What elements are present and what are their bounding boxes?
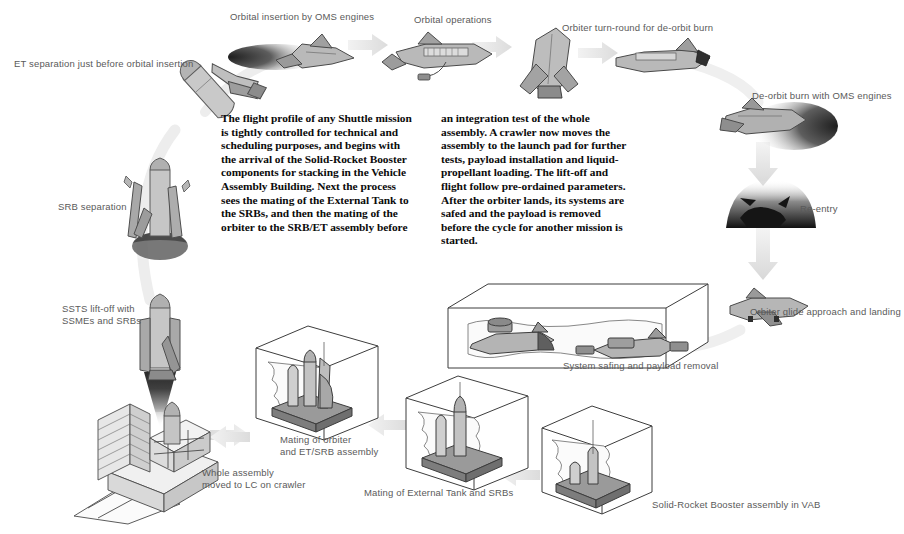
shuttle-mission-cycle-diagram: ET separation just before orbital insert…	[0, 0, 904, 534]
label-orbital-insertion: Orbital insertion by OMS engines	[230, 11, 374, 23]
label-srb-separation: SRB separation	[58, 201, 127, 213]
label-whole-assembly: Whole assembly moved to LC on crawler	[202, 467, 306, 490]
label-mating-orbiter: Mating of orbiter and ET/SRB assembly	[280, 434, 378, 457]
label-system-safing: System safing and payload removal	[563, 360, 718, 372]
body-text-column-2: an integration test of the whole assembl…	[441, 112, 627, 248]
label-glide-landing: Orbiter glide approach and landing	[750, 306, 901, 318]
art-deorbit-burn	[720, 96, 860, 162]
label-mating-et-srb: Mating of External Tank and SRBs	[364, 487, 513, 499]
label-deorbit-burn: De-orbit burn with OMS engines	[752, 90, 892, 102]
label-srb-assembly-vab: Solid-Rocket Booster assembly in VAB	[652, 499, 820, 511]
label-et-separation: ET separation just before orbital insert…	[14, 58, 193, 70]
art-srb-assembly-vab-box	[534, 404, 660, 518]
body-text-column-1: The flight profile of any Shuttle missio…	[221, 112, 417, 234]
label-ssts-liftoff: SSTS lift-off with SSMEs and SRBs	[62, 303, 141, 326]
art-orbiter-side	[610, 36, 720, 82]
art-whole-assembly-crawler	[68, 398, 258, 526]
label-orbital-operations: Orbital operations	[414, 14, 492, 26]
label-orbiter-turnround: Orbiter turn-round for de-orbit burn	[562, 22, 713, 34]
art-mating-et-srb-box	[398, 374, 536, 494]
art-orbital-operations	[388, 26, 508, 96]
art-mating-orbiter-box	[246, 322, 386, 444]
art-orbiter-turnround	[508, 24, 604, 102]
art-orbital-insertion	[232, 24, 362, 88]
label-reentry: Re-entry	[800, 203, 838, 215]
